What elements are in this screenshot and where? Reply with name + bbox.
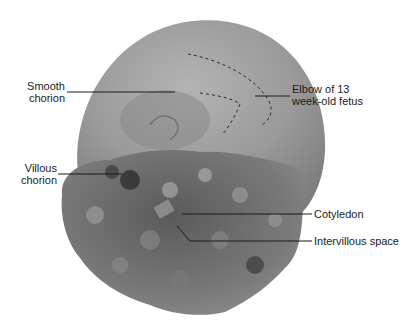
label-line: Elbow of 13 [292,83,363,95]
label-villous-chorion: Villous chorion [17,162,57,186]
label-line: Cotyledon [314,208,364,220]
label-smooth-chorion: Smooth chorion [25,80,65,104]
label-line: chorion [17,174,57,186]
label-line: Villous [17,162,57,174]
label-elbow-of-fetus: Elbow of 13 week-old fetus [292,83,363,107]
label-line: Intervillous space [314,235,399,247]
label-intervillous-space: Intervillous space [314,235,399,247]
label-cotyledon: Cotyledon [314,208,364,220]
label-line: week-old fetus [292,95,363,107]
chorionic-sac-figure [0,0,414,329]
label-line: chorion [25,92,65,104]
villous-chorion-region [62,150,308,315]
label-line: Smooth [25,80,65,92]
